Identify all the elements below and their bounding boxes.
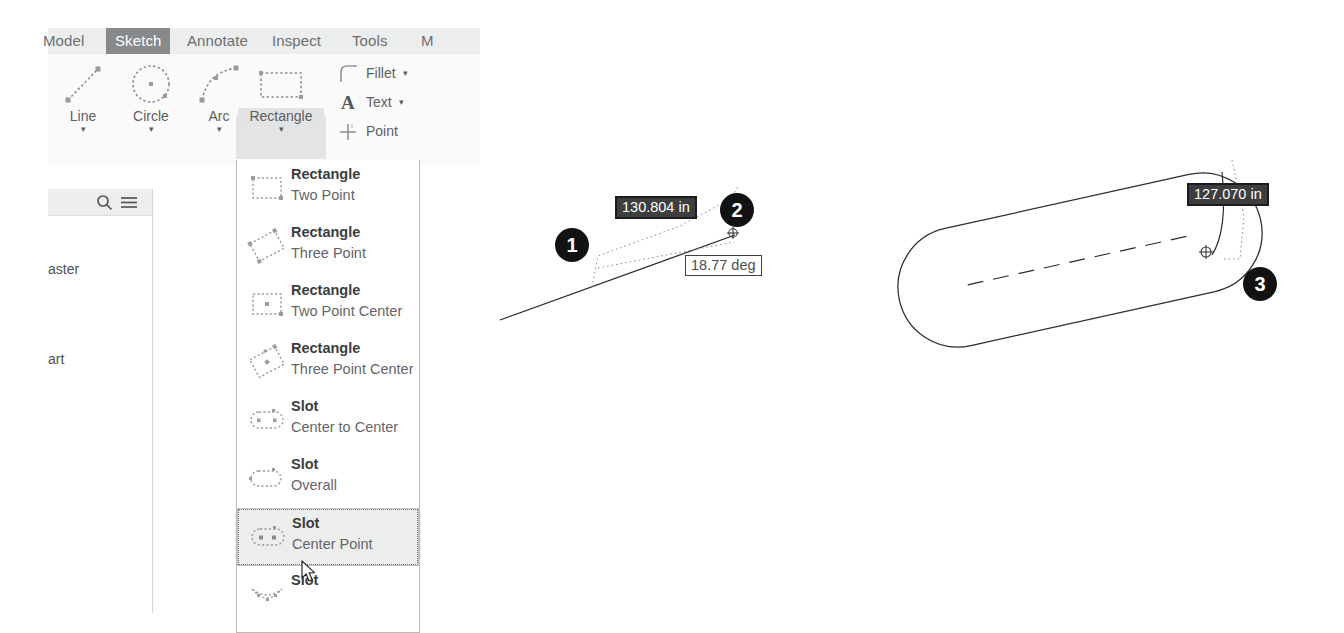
line-caret-icon[interactable]: ▾	[54, 125, 112, 134]
menu-item-subtitle: Two Point Center	[291, 303, 402, 319]
text-button[interactable]: A Text ▾	[338, 89, 404, 115]
menu-item-subtitle: Three Point Center	[291, 361, 414, 377]
fillet-label: Fillet	[366, 65, 396, 81]
sketch-slot-geometry	[860, 120, 1320, 410]
menu-item-rectangle-three-point[interactable]: Rectangle Three Point	[237, 218, 419, 276]
slot-arc-icon	[245, 577, 289, 611]
callout-1: 1	[555, 228, 589, 262]
menu-item-rectangle-three-point-center[interactable]: Rectangle Three Point Center	[237, 334, 419, 392]
text-caret-icon[interactable]: ▾	[399, 97, 404, 107]
tab-model[interactable]: Model	[34, 28, 93, 54]
line-button[interactable]: Line ▾	[54, 60, 112, 134]
tab-inspect[interactable]: Inspect	[263, 28, 330, 54]
menu-item-title: Rectangle	[291, 340, 360, 356]
fillet-caret-icon[interactable]: ▾	[403, 68, 408, 78]
tab-sketch[interactable]: Sketch	[106, 28, 170, 54]
length-dimension-field-2[interactable]: 127.070 in	[1187, 183, 1269, 206]
line-label: Line	[54, 108, 112, 124]
menu-item-slot-center-point[interactable]: Slot Center Point	[237, 508, 419, 566]
menu-item-title: Slot	[291, 456, 318, 472]
slot-overall-icon	[245, 461, 289, 495]
slot-center-to-center-icon	[245, 403, 289, 437]
tab-more[interactable]: M	[412, 28, 443, 54]
menu-item-slot-arc[interactable]: Slot	[237, 566, 419, 624]
ribbon-tab-strip: Model Sketch Annotate Inspect Tools M	[48, 28, 480, 55]
slot-point-snap-marker	[1199, 245, 1213, 259]
rectangle-three-point-center-icon	[245, 345, 289, 379]
fillet-icon	[338, 63, 360, 83]
menu-item-rectangle-two-point-center[interactable]: Rectangle Two Point Center	[237, 276, 419, 334]
line-icon	[56, 60, 110, 108]
menu-item-slot-center-to-center[interactable]: Slot Center to Center	[237, 392, 419, 450]
hamburger-menu-icon[interactable]	[120, 194, 138, 211]
slot-centerline	[968, 235, 1193, 285]
menu-item-subtitle: Overall	[291, 477, 337, 493]
text-label: Text	[366, 94, 392, 110]
menu-item-title: Slot	[291, 398, 318, 414]
callout-3: 3	[1243, 267, 1277, 301]
circle-caret-icon[interactable]: ▾	[122, 125, 180, 134]
rectangle-icon	[238, 60, 324, 108]
tab-tools[interactable]: Tools	[343, 28, 397, 54]
browser-panel-header	[48, 189, 152, 216]
rectangle-three-point-icon	[245, 229, 289, 263]
slot-center-point-icon	[246, 520, 290, 554]
text-icon: A	[338, 92, 360, 112]
mouse-cursor-icon	[301, 560, 317, 584]
menu-item-subtitle: Center Point	[292, 536, 373, 552]
rectangle-dropdown-menu: Rectangle Two Point Rectangle Three Poin…	[236, 160, 420, 633]
browser-node-part[interactable]: art	[48, 351, 64, 367]
ribbon-panel-create: Line ▾ Circle ▾	[48, 54, 480, 165]
menu-item-title: Slot	[292, 515, 319, 531]
rectangle-two-point-center-icon	[245, 287, 289, 321]
slot-length-leader	[1224, 160, 1244, 259]
search-icon[interactable]	[96, 194, 113, 211]
menu-item-subtitle: Two Point	[291, 187, 355, 203]
callout-2: 2	[720, 193, 754, 227]
menu-item-title: Rectangle	[291, 282, 360, 298]
rectangle-caret-icon[interactable]: ▾	[238, 125, 324, 134]
sketch-canvas[interactable]: 1 2 130.804 in 18.77 deg 127.070 in 3	[480, 0, 1344, 633]
svg-text:A: A	[341, 92, 355, 113]
menu-item-slot-overall[interactable]: Slot Overall	[237, 450, 419, 508]
menu-item-title: Rectangle	[291, 166, 360, 182]
menu-item-title: Rectangle	[291, 224, 360, 240]
point-icon	[338, 121, 360, 141]
rectangle-button[interactable]: Rectangle ▾	[238, 60, 324, 134]
circle-label: Circle	[122, 108, 180, 124]
fillet-button[interactable]: Fillet ▾	[338, 60, 408, 86]
point-button[interactable]: Point	[338, 118, 398, 144]
ribbon: Model Sketch Annotate Inspect Tools M Li…	[48, 28, 480, 165]
circle-icon	[124, 60, 178, 108]
menu-item-subtitle: Center to Center	[291, 419, 398, 435]
sketch-line	[500, 235, 735, 320]
browser-panel: aster art	[48, 189, 153, 613]
app-window: Model Sketch Annotate Inspect Tools M Li…	[0, 0, 1344, 633]
tab-annotate[interactable]: Annotate	[178, 28, 257, 54]
browser-node-master[interactable]: aster	[48, 261, 79, 277]
point-label: Point	[366, 123, 398, 139]
menu-item-rectangle-two-point[interactable]: Rectangle Two Point	[237, 160, 419, 218]
rectangle-two-point-icon	[245, 171, 289, 205]
rectangle-label: Rectangle	[238, 108, 324, 124]
menu-item-subtitle: Three Point	[291, 245, 366, 261]
length-dimension-field-1[interactable]: 130.804 in	[615, 196, 697, 219]
angle-dimension-field[interactable]: 18.77 deg	[685, 255, 762, 276]
circle-button[interactable]: Circle ▾	[122, 60, 180, 134]
